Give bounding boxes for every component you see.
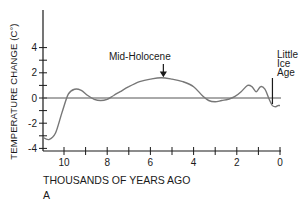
x-tick-label: 10 [58,157,70,168]
y-tick-label: -4 [28,143,37,154]
y-tick-label: -2 [28,118,37,129]
y-tick-label: 4 [31,42,37,53]
annotation-mid-holocene: Mid-Holocene [109,52,171,61]
ticks [39,48,280,155]
x-tick-label: 0 [277,157,283,168]
axes [43,10,281,151]
y-tick-label: 2 [31,67,37,78]
x-tick-label: 2 [234,157,240,168]
panel-label: A [43,189,50,201]
x-tick-label: 6 [148,157,154,168]
x-tick-label: 8 [104,157,110,168]
y-tick-label: 0 [31,93,37,104]
mid-holocene-arrow-head [161,72,166,76]
temperature-series-line [42,78,280,140]
annotation-little-ice-age-line3: Age [277,68,295,77]
x-tick-label: 4 [191,157,197,168]
x-axis-label: THOUSANDS OF YEARS AGO [43,174,190,186]
y-axis-label: TEMPERATURE CHANGE (C°) [8,17,19,167]
